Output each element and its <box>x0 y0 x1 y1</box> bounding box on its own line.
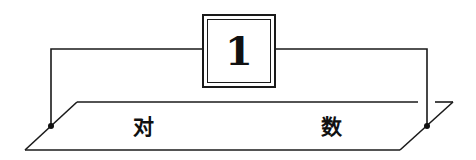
right-point-dot <box>424 123 430 129</box>
plane-left-label: 对 <box>133 117 154 138</box>
left-connector-line <box>51 49 202 126</box>
number-box-inner: 1 <box>207 19 271 83</box>
left-point-dot <box>48 123 54 129</box>
number-label: 1 <box>225 31 253 71</box>
right-connector-line <box>274 49 427 126</box>
number-box: 1 <box>202 14 276 88</box>
plane-right-label: 数 <box>321 117 342 138</box>
